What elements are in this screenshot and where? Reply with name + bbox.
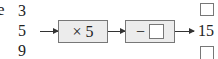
input-value-1: 3 <box>15 3 29 19</box>
operation-label: × 5 <box>72 23 93 41</box>
arrow-icon <box>40 31 58 32</box>
subtract-machine: − <box>125 20 175 43</box>
operation-label: − <box>136 23 145 41</box>
input-value-3: 9 <box>15 43 29 59</box>
output-value-2: 15 <box>198 23 218 39</box>
cut-off-text: e <box>0 1 5 18</box>
input-value-2: 5 <box>15 23 29 39</box>
arrow-icon <box>108 31 125 32</box>
output-answer-box-1[interactable] <box>200 3 214 16</box>
operand-answer-box[interactable] <box>149 24 164 39</box>
output-answer-box-3[interactable] <box>200 46 214 59</box>
multiply-machine: × 5 <box>58 20 108 43</box>
arrow-icon <box>175 31 194 32</box>
